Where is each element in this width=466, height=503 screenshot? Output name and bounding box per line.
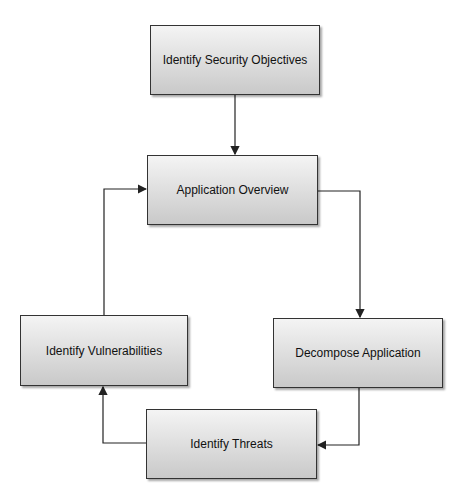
node-label: Identify Vulnerabilities xyxy=(46,344,162,358)
arrow-overview-to-decompose xyxy=(318,191,360,317)
node-application-overview: Application Overview xyxy=(147,155,318,225)
node-identify-security-objectives: Identify Security Objectives xyxy=(150,25,320,95)
node-label: Identify Security Objectives xyxy=(163,53,308,67)
node-identify-threats: Identify Threats xyxy=(146,409,317,479)
node-identify-vulnerabilities: Identify Vulnerabilities xyxy=(20,315,188,386)
arrow-vulnerabilities-to-overview xyxy=(104,189,146,315)
arrow-decompose-to-threats xyxy=(318,388,359,445)
node-label: Application Overview xyxy=(176,183,288,197)
node-label: Identify Threats xyxy=(190,437,273,451)
node-label: Decompose Application xyxy=(295,346,420,360)
node-decompose-application: Decompose Application xyxy=(273,318,443,388)
arrow-threats-to-vulnerabilities xyxy=(103,387,146,443)
